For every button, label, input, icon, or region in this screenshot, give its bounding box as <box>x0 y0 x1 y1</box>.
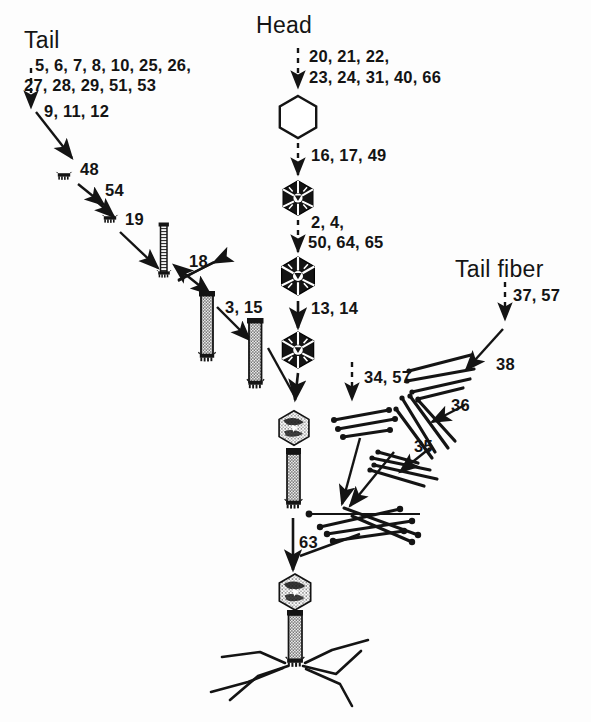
tail-fiber-step2-label: 38 <box>496 355 515 373</box>
tail-step3-arrow <box>78 184 104 205</box>
capsid-icon-2 <box>282 257 315 295</box>
tail-fiber-step1-label: 37, 57 <box>513 286 560 304</box>
tail-step4-label: 54 <box>105 181 124 199</box>
tail-step3-label: 48 <box>80 160 99 178</box>
tail-fiber-step4-label: 35 <box>414 437 433 455</box>
head-step3-label: 2, 4, <box>311 213 344 231</box>
tail-step6-label: 18 <box>189 252 208 270</box>
fiber-bundle-4 <box>331 407 398 440</box>
fiber-branch-merge-line <box>342 438 394 506</box>
tail-fiber-branch-label: 34, 57 <box>364 368 411 386</box>
heading-tail: Tail <box>24 28 60 54</box>
tail-step5-label: 19 <box>125 210 144 228</box>
sheathed-tail-icon-2 <box>247 318 264 388</box>
tail-step1-label: 5, 6, 7, 8, 10, 25, 26, <box>35 56 191 74</box>
tail-step4-arrow <box>93 198 114 217</box>
baseplate-icon-1 <box>57 172 72 180</box>
heading-tail-fiber: Tail fiber <box>455 257 544 283</box>
head-step4-label: 13, 14 <box>311 299 358 317</box>
tail-fiber-step3-label: 36 <box>451 396 470 414</box>
final-step-label: 63 <box>299 533 318 551</box>
prohead-icon <box>280 96 316 138</box>
baseplate-icon-2 <box>103 215 118 223</box>
tail-step7-label: 3, 15 <box>225 298 263 316</box>
head-step1-label: 20, 21, 22, <box>309 47 389 65</box>
head-tail-assembly <box>279 411 309 509</box>
head-step2-label: 16, 17, 49 <box>311 146 386 164</box>
fiber-bundle-final <box>317 506 421 545</box>
head-step3b-label: 50, 64, 65 <box>308 233 383 251</box>
tail-step1b-label: 27, 28, 29, 51, 53 <box>24 76 156 94</box>
tail-tube-icon <box>157 223 171 278</box>
tail-step2-label: 9, 11, 12 <box>44 102 109 120</box>
head-to-assembly-arrow <box>295 373 298 400</box>
head-step1b-label: 23, 24, 31, 40, 66 <box>309 68 441 86</box>
complete-phage <box>211 574 368 706</box>
diagram-canvas: Tail 5, 6, 7, 8, 10, 25, 26, 27, 28, 29,… <box>0 0 591 722</box>
capsid-icon-1 <box>283 181 313 215</box>
tail-step5-arrow <box>120 232 158 268</box>
heading-head: Head <box>256 13 312 39</box>
capsid-icon-3 <box>282 332 313 368</box>
fiber-bundle-1 <box>404 355 474 402</box>
sheathed-tail-icon-1 <box>198 291 215 361</box>
